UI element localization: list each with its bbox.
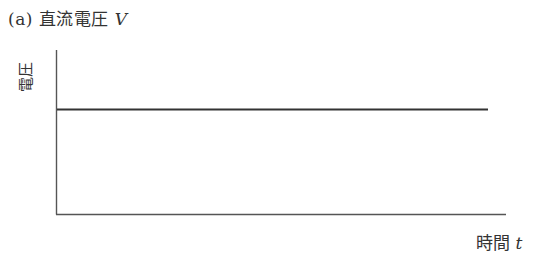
plot-area <box>0 0 543 266</box>
x-axis-label-text: 時間 <box>476 233 510 253</box>
x-axis-label: 時間 t <box>476 229 522 254</box>
x-axis-label-variable: t <box>515 233 522 253</box>
